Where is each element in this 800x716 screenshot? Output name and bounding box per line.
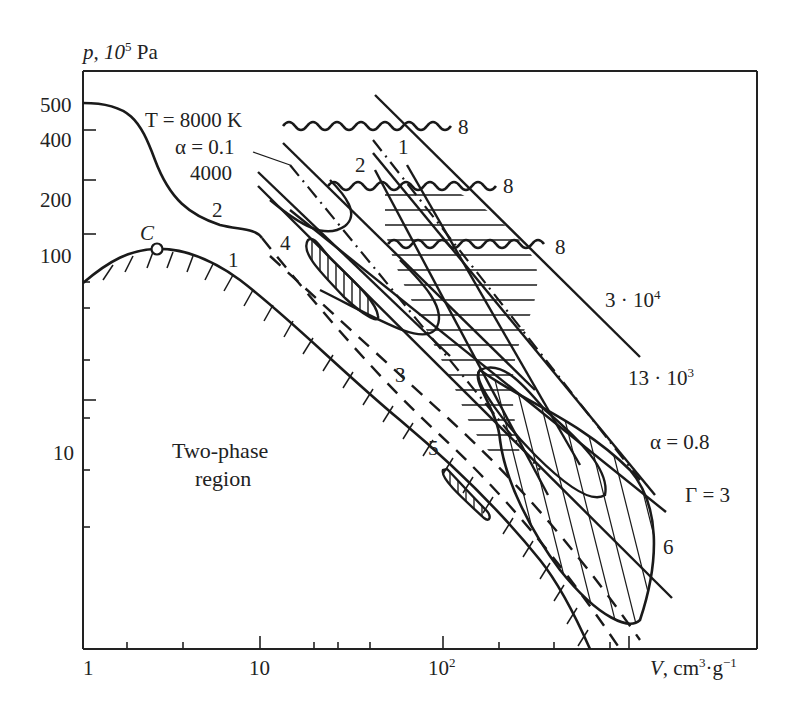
x-tick-100: 102 [428, 658, 456, 679]
label-line-2: 2 [355, 155, 366, 176]
label-critical-C: C [140, 223, 154, 244]
loop-curve-3 [478, 367, 605, 497]
y-axis-label: p, 105 Pa [83, 42, 158, 63]
loop-curve-2 [320, 260, 439, 334]
horizontal-hatch-region [380, 195, 560, 450]
label-3e4: 3 · 104 [605, 290, 661, 311]
isotherm-8000 [283, 143, 535, 390]
x-tick-10: 10 [249, 658, 270, 679]
y-tick-500: 500 [40, 95, 72, 116]
label-wavy-8-mid: 8 [503, 176, 514, 197]
label-wavy-8-top: 8 [458, 117, 469, 138]
y-axis-ticks [83, 130, 96, 527]
label-13e3: 13 · 103 [628, 368, 694, 389]
wavy-line-8-top [283, 122, 451, 130]
label-line-1: 1 [398, 137, 409, 158]
x-tick-1: 1 [83, 658, 94, 679]
label-gamma-3: Γ = 3 [685, 485, 730, 506]
x-axis-ticks [127, 636, 629, 649]
label-alpha-0.8: α = 0.8 [650, 432, 710, 453]
label-4000: 4000 [190, 163, 232, 184]
label-curve-3: 3 [395, 365, 406, 386]
curve-1-binodal [83, 249, 590, 649]
y-tick-100: 100 [40, 246, 72, 267]
phase-diagram-plot [0, 0, 800, 716]
critical-point-C [152, 244, 163, 255]
y-tick-10: 10 [53, 443, 74, 464]
label-T-8000K: T = 8000 K [145, 110, 242, 131]
alpha-label-leader [253, 152, 290, 165]
label-curve-1: 1 [228, 250, 239, 271]
label-two-phase: Two-phase [172, 440, 268, 462]
wavy-line-8-low [388, 240, 544, 248]
region-6-outline [478, 370, 654, 623]
label-curve-2: 2 [212, 200, 223, 221]
y-tick-200: 200 [40, 190, 72, 211]
label-region: region [195, 468, 251, 490]
label-alpha-0.1: α = 0.1 [175, 137, 235, 158]
x-axis-label: V, cm3·g−1 [650, 658, 737, 679]
label-wavy-8-low: 8 [555, 237, 566, 258]
label-region-6: 6 [663, 537, 674, 558]
y-tick-400: 400 [40, 130, 72, 151]
label-region-4: 4 [280, 233, 291, 254]
label-region-5: 5 [428, 438, 439, 459]
